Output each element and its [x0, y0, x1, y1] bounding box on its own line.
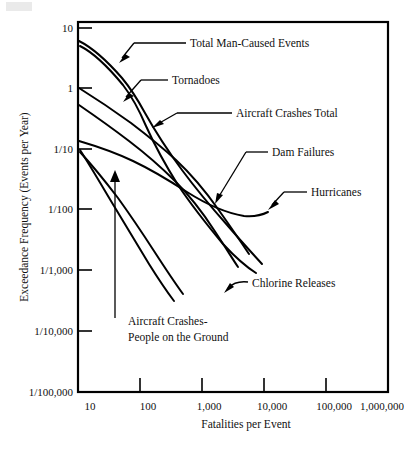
y-tick-label-1-100: 1/100 [48, 203, 74, 215]
series-label-chlorine-releases: Chlorine Releases [252, 277, 336, 289]
y-tick-label-10: 10 [62, 22, 74, 34]
y-tick-label-1-10000: 1/10,000 [34, 325, 73, 337]
x-tick-label-10: 10 [85, 400, 97, 412]
y-axis-title: Exceedance Frequency (Events per Year) [18, 112, 31, 302]
x-axis-ticks [140, 378, 326, 392]
x-tick-label-100: 100 [140, 400, 157, 412]
series-label-aircraft-ground-line2: People on the Ground [128, 331, 229, 344]
series-label-aircraft-total: Aircraft Crashes Total [236, 107, 338, 119]
x-tick-label-1000: 1,000 [197, 400, 222, 412]
y-axis-ticks [78, 28, 92, 392]
curve-aircraft-ground [80, 150, 174, 301]
arrowhead-total-man-caused [119, 54, 130, 63]
series-labels: Total Man-Caused Events Tornadoes Aircra… [128, 37, 362, 344]
y-tick-label-1-100000: 1/100,000 [29, 386, 74, 398]
series-label-dam-failures: Dam Failures [272, 146, 335, 158]
x-axis-tick-labels: 10 100 1,000 10,000 100,000 1,000,000 [85, 400, 404, 412]
x-tick-label-10000: 10,000 [257, 400, 288, 412]
curve-total-man-caused [79, 41, 262, 264]
series-label-total-man-caused: Total Man-Caused Events [190, 37, 310, 49]
leader-total-man-caused-elbow [122, 43, 134, 58]
leader-dam-failures-elbow [218, 152, 246, 198]
arrowhead-aircraft-ground [110, 170, 120, 182]
arrowhead-dam-failures [215, 193, 223, 204]
x-axis-title: Fatalities per Event [201, 418, 291, 431]
y-tick-label-1-10: 1/10 [53, 143, 73, 155]
y-tick-label-1-1000: 1/1,000 [40, 264, 74, 276]
series-label-tornadoes: Tornadoes [172, 74, 220, 86]
arrowhead-hurricanes [268, 200, 279, 210]
series-label-aircraft-ground-line1: Aircraft Crashes- [128, 315, 208, 327]
x-tick-label-100000: 100,000 [316, 400, 352, 412]
figure-container: 10 1 1/10 1/100 1/1,000 1/10,000 1/100,0… [0, 0, 404, 449]
x-tick-label-1000000: 1,000,000 [360, 400, 404, 412]
risk-exceedance-chart: 10 1 1/10 1/100 1/1,000 1/10,000 1/100,0… [0, 0, 404, 449]
series-label-hurricanes: Hurricanes [311, 186, 362, 198]
y-tick-label-1: 1 [68, 82, 74, 94]
y-axis-tick-labels: 10 1 1/10 1/100 1/1,000 1/10,000 1/100,0… [29, 22, 74, 398]
